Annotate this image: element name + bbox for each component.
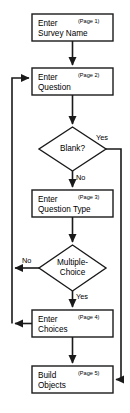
edge-blank-yes-to-build xyxy=(106,149,121,380)
node-question-type-shape xyxy=(32,190,113,217)
node-build-objects-shape xyxy=(32,366,113,393)
flowchart-diagram: Enter (Page 1) Survey Name Enter (Page 2… xyxy=(0,0,130,413)
edge-left-rail-to-question xyxy=(12,78,29,324)
node-choices-shape xyxy=(32,310,113,337)
node-blank-decision-shape xyxy=(39,127,106,171)
node-survey-name-shape xyxy=(32,14,113,41)
flowchart-canvas xyxy=(0,0,130,413)
node-multiple-choice-decision-shape xyxy=(39,245,106,291)
node-question-shape xyxy=(32,68,113,95)
